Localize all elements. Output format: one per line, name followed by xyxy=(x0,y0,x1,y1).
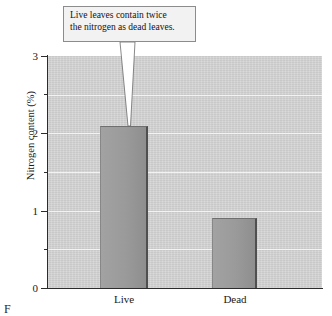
gridline-0-5 xyxy=(48,249,322,250)
gridline-2-5 xyxy=(48,95,322,96)
y-axis-title: Nitrogen content (%) xyxy=(25,51,36,221)
plot-area xyxy=(48,56,322,288)
bar-live xyxy=(100,126,148,288)
y-tick-mark-1-5 xyxy=(44,172,48,173)
y-tick-mark-0-5 xyxy=(44,249,48,250)
y-tick-mark-1 xyxy=(41,211,48,212)
y-tick-mark-3 xyxy=(41,56,48,57)
gridline-1-0 xyxy=(48,211,322,212)
callout-line-1: Live leaves contain twice xyxy=(70,10,190,22)
y-tick-mark-0 xyxy=(41,288,48,289)
y-tick-mark-2-5 xyxy=(44,94,48,95)
figure-caption: F xyxy=(4,303,332,316)
y-tick-label-0: 0 xyxy=(12,283,38,294)
gridline-2-0 xyxy=(48,133,322,134)
callout-line-2: the nitrogen as dead leaves. xyxy=(70,22,190,34)
callout-annotation-box: Live leaves contain twice the nitrogen a… xyxy=(63,6,196,42)
x-axis-line xyxy=(47,288,323,289)
bar-dead xyxy=(212,218,257,288)
figure-container: 3 2 1 0 Nitrogen content (%) Live Dead L… xyxy=(0,0,332,316)
y-tick-mark-2 xyxy=(41,133,48,134)
gridline-1-5 xyxy=(48,172,322,173)
